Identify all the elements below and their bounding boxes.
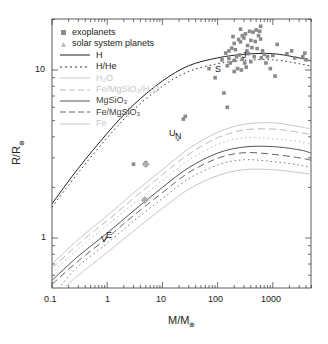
exoplanet-marker: [252, 55, 256, 59]
exoplanet-marker: [275, 43, 279, 47]
planet-label-saturn: S: [215, 64, 221, 74]
solid-line-icon: [60, 99, 90, 103]
triangle-marker-icon: [61, 42, 66, 47]
y-tick-label: 1: [41, 232, 46, 242]
exoplanet-marker: [247, 52, 251, 56]
exoplanet-marker: [244, 32, 248, 36]
x-axis-label: M/M⊕: [168, 314, 195, 329]
exoplanet-marker: [257, 34, 261, 38]
exoplanet-marker: [249, 39, 253, 43]
exoplanet-marker: [259, 37, 263, 41]
exoplanet-marker: [303, 51, 307, 55]
solid-line-icon: [60, 76, 90, 80]
legend-item-fe-mgsio3-h2o: Fe/MgSiO₃/H₂O: [60, 84, 160, 95]
exoplanet-marker: [290, 49, 294, 53]
exoplanet-marker: [262, 53, 266, 57]
exoplanet-marker: [229, 61, 233, 65]
planet-label-earth: E: [106, 230, 112, 240]
exoplanet-marker: [240, 68, 244, 72]
x-tick-label: 0.1: [44, 294, 57, 304]
exoplanet-marker: [226, 106, 230, 110]
exoplanet-marker: [249, 60, 253, 64]
exoplanet-marker: [304, 58, 308, 62]
exoplanet-marker: [260, 56, 264, 60]
exoplanet-marker: [271, 54, 275, 58]
exoplanet-marker: [251, 30, 255, 34]
exoplanet-marker: [231, 35, 235, 39]
exoplanet-marker: [236, 67, 240, 71]
legend-item-fe: Fe: [60, 118, 160, 129]
x-tick-label: 1000: [261, 294, 281, 304]
exoplanet-marker: [301, 55, 305, 59]
exoplanet-marker: [255, 47, 259, 51]
y-axis-label: R/R⊕: [10, 131, 25, 175]
exoplanet-marker: [259, 25, 263, 29]
exoplanet-marker: [285, 52, 289, 56]
legend-item-mgsio3: MgSiO₃: [60, 95, 160, 106]
exoplanet-marker: [235, 55, 239, 59]
exoplanet-marker: [273, 74, 277, 78]
legend-item-fe-mgsio3: Fe/MgSiO₃: [60, 107, 160, 118]
legend-item-hhe: H/He: [60, 61, 160, 72]
exoplanet-marker: [224, 51, 228, 55]
square-marker-icon: [61, 30, 66, 35]
x-tick-label: 1: [105, 294, 110, 304]
legend-item-exoplanets: exoplanets: [60, 27, 160, 38]
x-tick-label: 100: [208, 294, 223, 304]
exoplanet-marker: [269, 67, 273, 71]
exoplanet-marker: [227, 57, 231, 61]
dashed-line-icon: [60, 88, 90, 92]
exoplanet-marker: [254, 28, 258, 32]
exoplanet-marker: [232, 42, 236, 46]
exoplanet-marker: [248, 30, 252, 34]
legend-item-solar-system: solar system planets: [60, 38, 160, 49]
curve-mgsio-: [52, 146, 311, 280]
exoplanet-marker: [232, 70, 236, 74]
exoplanet-marker: [213, 76, 217, 80]
exoplanet-marker: [293, 56, 297, 60]
exoplanet-marker: [227, 49, 231, 53]
exoplanet-marker: [258, 30, 262, 34]
exoplanet-marker: [222, 91, 226, 95]
exoplanet-marker: [232, 59, 236, 63]
exoplanet-marker: [243, 61, 247, 65]
curve-fe: [63, 169, 311, 288]
exoplanet-marker: [261, 49, 265, 53]
solid-line-icon: [60, 53, 90, 57]
dotted-line-icon: [60, 65, 90, 69]
exoplanet-marker: [264, 61, 268, 65]
x-tick-label: 10: [156, 294, 166, 304]
legend: exoplanets solar system planets H H/He H…: [60, 27, 160, 130]
dashed-line-icon: [60, 110, 90, 114]
exoplanet-marker: [244, 65, 248, 69]
exoplanet-marker: [220, 58, 224, 62]
y-tick-label: 10: [35, 64, 45, 74]
mass-radius-chart: [0, 0, 328, 344]
legend-item-h: H: [60, 50, 160, 61]
exoplanet-marker: [132, 162, 136, 166]
planet-label-neptune: N: [175, 131, 182, 141]
earth-symbol: ⊕: [18, 140, 25, 146]
exoplanet-marker: [207, 67, 211, 71]
curve-h-o-dotted: [52, 137, 311, 272]
exoplanet-marker: [234, 48, 238, 52]
planet-label-jupiter: J: [242, 50, 247, 60]
exoplanet-marker: [184, 115, 188, 119]
solid-line-icon: [60, 122, 90, 126]
exoplanet-marker: [239, 27, 243, 31]
curve-fe-mgsio-h-o: [52, 129, 311, 268]
exoplanet-marker: [266, 55, 270, 59]
exoplanet-marker: [238, 53, 242, 57]
legend-item-h2o: H₂O: [60, 73, 160, 84]
exoplanet-marker: [239, 40, 243, 44]
exoplanet-marker: [253, 40, 257, 44]
exoplanet-marker: [246, 44, 250, 48]
exoplanet-marker: [250, 46, 254, 50]
earth-symbol: ⊕: [189, 321, 195, 328]
exoplanet-marker: [242, 36, 246, 40]
